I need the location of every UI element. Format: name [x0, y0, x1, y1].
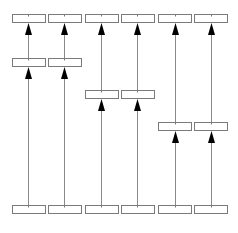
arrowhead-icon — [98, 99, 105, 111]
arrowhead-icon — [208, 131, 215, 143]
arrowhead-icon — [25, 67, 32, 79]
arrowhead-icon — [25, 23, 32, 35]
node-box-top-4 — [122, 15, 155, 23]
node-box-mid-4 — [122, 91, 155, 99]
node-box-mid-2 — [49, 59, 82, 67]
node-box-mid-3 — [86, 91, 119, 99]
diagram-canvas — [0, 0, 238, 233]
arrow-mid-2-to-top-2 — [61, 23, 68, 58]
arrow-mid-4-to-top-4 — [134, 23, 141, 90]
arrow-bot-6-to-mid-6 — [208, 131, 215, 205]
node-box-top-3 — [86, 15, 119, 23]
arrowhead-icon — [61, 23, 68, 35]
arrowhead-icon — [172, 131, 179, 143]
node-box-mid-1 — [13, 59, 46, 67]
node-box-bot-6 — [195, 206, 228, 214]
node-box-bot-3 — [86, 206, 119, 214]
arrow-mid-6-to-top-6 — [208, 23, 215, 122]
arrow-mid-1-to-top-1 — [25, 23, 32, 58]
arrow-bot-5-to-mid-5 — [172, 131, 179, 205]
arrowhead-icon — [134, 23, 141, 35]
arrow-mid-3-to-top-3 — [98, 23, 105, 90]
node-box-bot-1 — [13, 206, 46, 214]
arrow-mid-5-to-top-5 — [172, 23, 179, 122]
arrowhead-icon — [98, 23, 105, 35]
arrow-bot-1-to-mid-1 — [25, 67, 32, 205]
arrow-bot-3-to-mid-3 — [98, 99, 105, 205]
node-box-bot-2 — [49, 206, 82, 214]
arrowhead-icon — [208, 23, 215, 35]
arrowhead-icon — [172, 23, 179, 35]
arrowhead-icon — [134, 99, 141, 111]
arrow-bot-4-to-mid-4 — [134, 99, 141, 205]
node-box-bot-4 — [122, 206, 155, 214]
node-box-top-1 — [13, 15, 46, 23]
node-box-top-6 — [195, 15, 228, 23]
node-box-mid-6 — [195, 123, 228, 131]
node-box-top-2 — [49, 15, 82, 23]
node-box-bot-5 — [159, 206, 192, 214]
node-box-mid-5 — [159, 123, 192, 131]
node-box-top-5 — [159, 15, 192, 23]
arrowhead-icon — [61, 67, 68, 79]
arrow-bot-2-to-mid-2 — [61, 67, 68, 205]
